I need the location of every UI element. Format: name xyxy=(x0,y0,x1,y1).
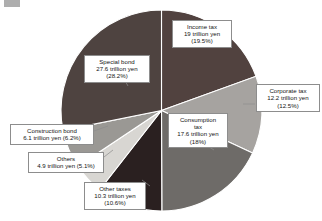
callout-corporate-tax: Corporate tax 12.2 trillion yen (12.5%) xyxy=(256,84,320,112)
callout-othertaxes-line2: 10.3 trillion yen xyxy=(87,192,143,199)
callout-income-line3: (19.5%) xyxy=(175,37,229,44)
callout-construction-bond: Construction bond 6.1 trillion yen (6.2%… xyxy=(10,124,94,145)
callout-income-line1: Income tax xyxy=(175,23,229,30)
callout-othertaxes-line3: (10.6%) xyxy=(87,199,143,206)
callout-corporate-line1: Corporate tax xyxy=(259,87,317,95)
callout-construction-line1: Construction bond xyxy=(13,127,91,135)
callout-others: Others 4.9 trillion yen (5.1%) xyxy=(28,152,104,173)
pie-chart: Income tax 19 trillion yen (19.5%) Corpo… xyxy=(0,0,322,221)
callout-consumption-tax: Consumption tax 17.6 trillion yen (18%) xyxy=(168,113,228,148)
callout-special-line2: 27.6 trillion yen xyxy=(87,65,147,72)
callout-other-taxes: Other taxes 10.3 trillion yen (10.6%) xyxy=(84,182,146,210)
callout-consumption-line1: Consumption xyxy=(171,116,225,123)
callout-corporate-line2: 12.2 trillion yen xyxy=(259,94,317,102)
callout-special-bond: Special bond 27.6 trillion yen (28.2%) xyxy=(84,55,150,83)
callout-othertaxes-line1: Other taxes xyxy=(87,185,143,192)
callout-special-line1: Special bond xyxy=(87,58,147,65)
callout-others-line2: 4.9 trillion yen (5.1%) xyxy=(31,162,101,170)
callout-income-tax: Income tax 19 trillion yen (19.5%) xyxy=(172,20,232,48)
callout-income-line2: 19 trillion yen xyxy=(175,30,229,37)
callout-consumption-line3: 17.6 trillion yen xyxy=(171,130,225,137)
callout-consumption-line4: (18%) xyxy=(171,138,225,145)
callout-corporate-line3: (12.5%) xyxy=(259,102,317,110)
callout-construction-line2: 6.1 trillion yen (6.2%) xyxy=(13,134,91,142)
callout-others-line1: Others xyxy=(31,155,101,163)
callout-consumption-line2: tax xyxy=(171,123,225,130)
callout-special-line3: (28.2%) xyxy=(87,72,147,79)
